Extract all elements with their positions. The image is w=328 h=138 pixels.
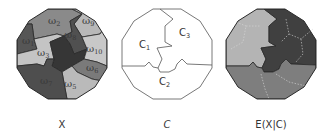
panel-exc	[226, 9, 316, 99]
caption-x: X	[59, 119, 66, 130]
caption-exc: E(X|C)	[255, 119, 286, 131]
panel-x: ω2 ω9 ω8 ω1 ω3 ω10 ω6 ω7 ω5	[17, 9, 107, 99]
figure: ω2 ω9 ω8 ω1 ω3 ω10 ω6 ω7 ω5 X C1 C3 C2 C	[0, 0, 328, 138]
caption-c: C	[164, 119, 171, 130]
panel-c: C1 C3 C2	[122, 9, 212, 99]
